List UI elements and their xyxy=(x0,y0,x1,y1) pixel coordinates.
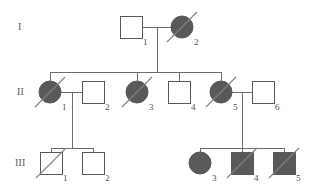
individual-iii-5[interactable] xyxy=(269,148,299,178)
individual-i-2[interactable] xyxy=(167,12,197,42)
individual-number-iii-5: 5 xyxy=(296,174,301,183)
individual-ii-5[interactable] xyxy=(206,77,236,107)
square-symbol-male-unaffected xyxy=(120,16,142,38)
individual-ii-1[interactable] xyxy=(35,77,65,107)
individual-number-iii-2: 2 xyxy=(105,174,110,183)
individual-number-iii-4: 4 xyxy=(254,174,259,183)
square-symbol-male-unaffected xyxy=(82,81,104,103)
individual-iii-2[interactable] xyxy=(82,152,104,174)
individual-number-ii-2: 2 xyxy=(105,103,110,112)
individual-symbols xyxy=(35,12,299,178)
individual-number-ii-5: 5 xyxy=(233,103,238,112)
individual-number-ii-3: 3 xyxy=(149,103,154,112)
individual-ii-4[interactable] xyxy=(168,81,190,103)
individual-i-1[interactable] xyxy=(120,16,142,38)
individual-iii-3[interactable] xyxy=(189,152,211,174)
individual-ii-3[interactable] xyxy=(122,77,152,107)
circle-symbol-female-affected xyxy=(189,152,211,174)
pedigree-diagram-canvas xyxy=(0,0,311,191)
individual-number-ii-6: 6 xyxy=(275,103,280,112)
generation-label-i: I xyxy=(18,22,22,32)
square-symbol-male-unaffected xyxy=(168,81,190,103)
individual-ii-6[interactable] xyxy=(252,81,274,103)
pedigree-chart: IIIIII 1212345612345 xyxy=(0,0,311,191)
individual-number-ii-4: 4 xyxy=(191,103,196,112)
individual-number-ii-1: 1 xyxy=(62,103,67,112)
square-symbol-male-unaffected xyxy=(82,152,104,174)
individual-number-iii-1: 1 xyxy=(63,174,68,183)
generation-label-ii: II xyxy=(17,87,24,97)
individual-ii-2[interactable] xyxy=(82,81,104,103)
generation-label-iii: III xyxy=(15,158,26,168)
square-symbol-male-unaffected xyxy=(252,81,274,103)
individual-iii-1[interactable] xyxy=(36,148,66,178)
individual-iii-4[interactable] xyxy=(227,148,257,178)
individual-number-iii-3: 3 xyxy=(212,174,217,183)
individual-number-i-1: 1 xyxy=(143,38,148,47)
individual-number-i-2: 2 xyxy=(194,38,199,47)
